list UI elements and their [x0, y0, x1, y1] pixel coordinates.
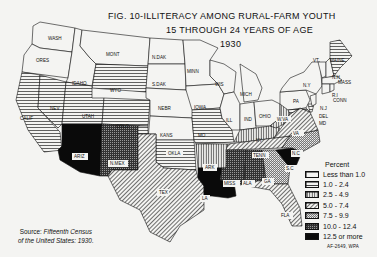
- svg-text:S.C: S.C: [286, 166, 294, 171]
- light-crosshatch-swatch-icon: [305, 212, 319, 219]
- svg-text:UTAH: UTAH: [82, 114, 94, 119]
- dark-crosshatch-swatch-icon: [305, 223, 319, 230]
- svg-text:ORES: ORES: [36, 58, 49, 63]
- svg-text:PA: PA: [293, 99, 300, 104]
- svg-text:S.DAK: S.DAK: [152, 82, 167, 87]
- svg-text:NEBR: NEBR: [158, 106, 171, 111]
- svg-text:OHIO: OHIO: [259, 114, 271, 119]
- svg-text:CALIF: CALIF: [20, 116, 33, 121]
- svg-text:KY: KY: [256, 138, 262, 143]
- svg-text:COLO: COLO: [116, 124, 129, 129]
- state-colo: [102, 98, 150, 126]
- legend-label: 12.5 or more: [323, 233, 363, 240]
- legend-header: Percent: [325, 161, 365, 168]
- svg-text:ARIZ: ARIZ: [74, 154, 85, 159]
- svg-text:MICH: MICH: [240, 92, 252, 97]
- legend-item-7-5-to-9-9: 7.5 - 9.9: [305, 211, 365, 221]
- svg-text:MO: MO: [198, 133, 206, 138]
- svg-text:WIS: WIS: [215, 82, 224, 87]
- svg-text:DEL: DEL: [319, 114, 328, 119]
- state-conn: [322, 84, 330, 94]
- source-note: Source: Fifteenth Census of the United S…: [18, 227, 94, 245]
- svg-text:TEX: TEX: [159, 190, 168, 195]
- source-prefix: Source:: [20, 228, 42, 235]
- state-ind: [240, 102, 256, 130]
- svg-text:IOWA: IOWA: [194, 105, 207, 110]
- source-title-1: Fifteenth Census: [44, 228, 92, 235]
- svg-text:W.VA: W.VA: [277, 117, 289, 122]
- legend-item-2-5-to-4-9: 2.5 - 4.9: [305, 190, 365, 200]
- horizontal-hatch-swatch-icon: [305, 181, 319, 188]
- svg-text:N.Y: N.Y: [303, 83, 311, 88]
- diagonal-hatch-swatch-icon: [305, 202, 319, 209]
- state-ariz: [58, 124, 102, 176]
- legend-label: Less than 1.0: [323, 171, 365, 178]
- legend-label: 2.5 - 4.9: [323, 191, 349, 198]
- illiteracy-map-figure: FIG. 10-ILLITERACY AMONG RURAL-FARM YOUT…: [0, 0, 377, 257]
- svg-text:NEV: NEV: [50, 106, 60, 111]
- solid-swatch-icon: [305, 233, 319, 240]
- state-ndak: [148, 38, 185, 64]
- svg-text:N.MEX: N.MEX: [110, 161, 125, 166]
- source-title-2: of the United States: 1930.: [18, 237, 94, 244]
- svg-text:WYO: WYO: [110, 88, 121, 93]
- vertical-hatch-swatch-icon: [305, 191, 319, 198]
- svg-text:FLA: FLA: [281, 213, 290, 218]
- svg-text:N.DAK: N.DAK: [152, 55, 167, 60]
- svg-text:VT: VT: [313, 58, 319, 63]
- legend-label: 7.5 - 9.9: [323, 212, 349, 219]
- blank-swatch-icon: [305, 171, 319, 178]
- legend-label: 5.0 - 7.4: [323, 202, 349, 209]
- svg-text:IDAHO: IDAHO: [72, 81, 87, 86]
- svg-text:ALA: ALA: [243, 181, 253, 186]
- svg-text:MISS: MISS: [224, 181, 235, 186]
- svg-text:ARK: ARK: [205, 165, 215, 170]
- svg-text:WASH: WASH: [48, 36, 62, 41]
- svg-text:MONT: MONT: [106, 52, 120, 57]
- legend-label: 10.0 - 12.4: [323, 223, 356, 230]
- figure-code: AF-2649, WPA: [327, 244, 359, 249]
- map-legend: Percent Less than 1.0 1.0 - 2.4 2.5 - 4.…: [305, 161, 365, 242]
- legend-item-less-than-1: Less than 1.0: [305, 169, 365, 179]
- svg-text:IND: IND: [244, 117, 253, 122]
- svg-text:MINN: MINN: [187, 69, 199, 74]
- legend-item-1-to-2-4: 1.0 - 2.4: [305, 179, 365, 189]
- svg-text:MAINE: MAINE: [330, 58, 345, 63]
- legend-item-12-5-or-more: 12.5 or more: [305, 231, 365, 241]
- svg-text:N.J: N.J: [320, 106, 327, 111]
- state-nmex: [100, 124, 140, 176]
- legend-label: 1.0 - 2.4: [323, 181, 349, 188]
- svg-text:MASS: MASS: [338, 80, 351, 85]
- svg-text:TENN: TENN: [253, 153, 266, 158]
- legend-item-5-to-7-4: 5.0 - 7.4: [305, 200, 365, 210]
- state-ri: [330, 84, 334, 92]
- state-ny: [280, 62, 322, 94]
- legend-item-10-to-12-4: 10.0 - 12.4: [305, 221, 365, 231]
- svg-text:ILL: ILL: [226, 118, 233, 123]
- svg-text:LA: LA: [202, 196, 209, 201]
- svg-text:MD: MD: [319, 121, 327, 126]
- state-fla: [248, 180, 302, 226]
- svg-text:GA: GA: [264, 179, 272, 184]
- svg-text:OKLA: OKLA: [168, 151, 181, 156]
- svg-text:CONN: CONN: [333, 98, 347, 103]
- svg-text:KANS: KANS: [160, 133, 173, 138]
- svg-text:N.C: N.C: [292, 151, 301, 156]
- svg-text:VA: VA: [293, 131, 300, 136]
